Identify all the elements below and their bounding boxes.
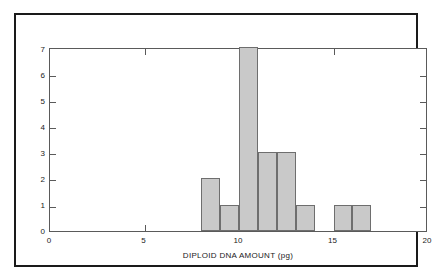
histogram-bar	[239, 47, 258, 231]
plot-inner	[50, 49, 426, 231]
x-axis-title: DIPLOID DNA AMOUNT (pg)	[49, 251, 427, 260]
x-axis-tick-labels: 0 5 10 15 20	[49, 236, 427, 248]
y-tick-5	[50, 102, 56, 103]
y-tick-4	[50, 128, 56, 129]
histogram-bar	[258, 152, 277, 231]
y-tick-label-7: 7	[25, 46, 45, 54]
x-tick-top-15	[334, 49, 335, 55]
y-tick-label-4: 4	[25, 124, 45, 132]
x-tick-5	[145, 225, 146, 231]
y-tick-label-3: 3	[25, 150, 45, 158]
y-tick-right-6	[420, 76, 426, 77]
histogram-bar	[277, 152, 296, 231]
y-tick-right-4	[420, 128, 426, 129]
y-tick-label-6: 6	[25, 72, 45, 80]
y-axis-tick-labels: 0 1 2 3 4 5 6 7	[25, 48, 45, 232]
histogram-bar	[352, 205, 371, 231]
x-tick-label-5: 5	[129, 236, 159, 245]
y-tick-1	[50, 207, 56, 208]
figure-container: NUMBER OF SPECIES 0 1 2 3 4 5 6 7	[0, 0, 434, 280]
x-tick-label-0: 0	[34, 236, 64, 245]
y-tick-right-2	[420, 180, 426, 181]
histogram-bar	[220, 205, 239, 231]
y-tick-right-5	[420, 102, 426, 103]
y-tick-right-1	[420, 207, 426, 208]
y-tick-label-1: 1	[25, 202, 45, 210]
histogram-bar	[201, 178, 220, 231]
y-tick-label-5: 5	[25, 98, 45, 106]
plot-area	[49, 48, 427, 232]
y-tick-3	[50, 154, 56, 155]
x-tick-label-10: 10	[223, 236, 253, 245]
figure-border: NUMBER OF SPECIES 0 1 2 3 4 5 6 7	[14, 13, 418, 267]
y-tick-label-2: 2	[25, 176, 45, 184]
x-tick-label-15: 15	[318, 236, 348, 245]
x-tick-top-5	[145, 49, 146, 55]
histogram-bar	[296, 205, 315, 231]
y-tick-right-3	[420, 154, 426, 155]
y-tick-label-0: 0	[25, 228, 45, 236]
x-tick-label-20: 20	[412, 236, 434, 245]
histogram-bar	[334, 205, 353, 231]
y-tick-2	[50, 180, 56, 181]
y-tick-6	[50, 76, 56, 77]
